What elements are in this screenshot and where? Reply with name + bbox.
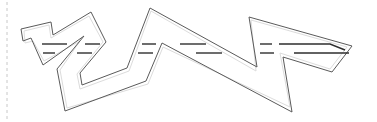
lane-dash-markings [42,44,349,53]
upper-lane-dash [279,44,345,50]
inner-offset-outline [24,11,347,108]
zigzag-road-diagram [0,0,377,122]
